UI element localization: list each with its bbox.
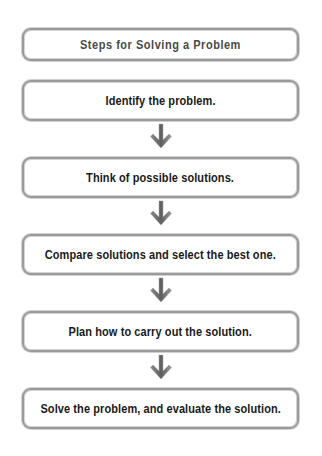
step-box-1: Identify the problem.: [22, 80, 299, 121]
step-label: Compare solutions and select the best on…: [45, 248, 276, 262]
down-arrow-icon: [149, 354, 173, 382]
down-arrow-icon: [149, 277, 173, 305]
step-box-2: Think of possible solutions.: [22, 157, 299, 198]
step-label: Solve the problem, and evaluate the solu…: [40, 402, 281, 416]
step-label: Identify the problem.: [105, 94, 215, 108]
step-label: Think of possible solutions.: [87, 171, 235, 185]
diagram-title-box: Steps for Solving a Problem: [22, 28, 299, 61]
step-box-3: Compare solutions and select the best on…: [22, 234, 299, 275]
step-box-4: Plan how to carry out the solution.: [22, 311, 299, 352]
step-box-5: Solve the problem, and evaluate the solu…: [22, 388, 299, 429]
down-arrow-icon: [149, 200, 173, 228]
diagram-title: Steps for Solving a Problem: [80, 38, 241, 52]
step-label: Plan how to carry out the solution.: [69, 325, 252, 339]
down-arrow-icon: [149, 123, 173, 151]
